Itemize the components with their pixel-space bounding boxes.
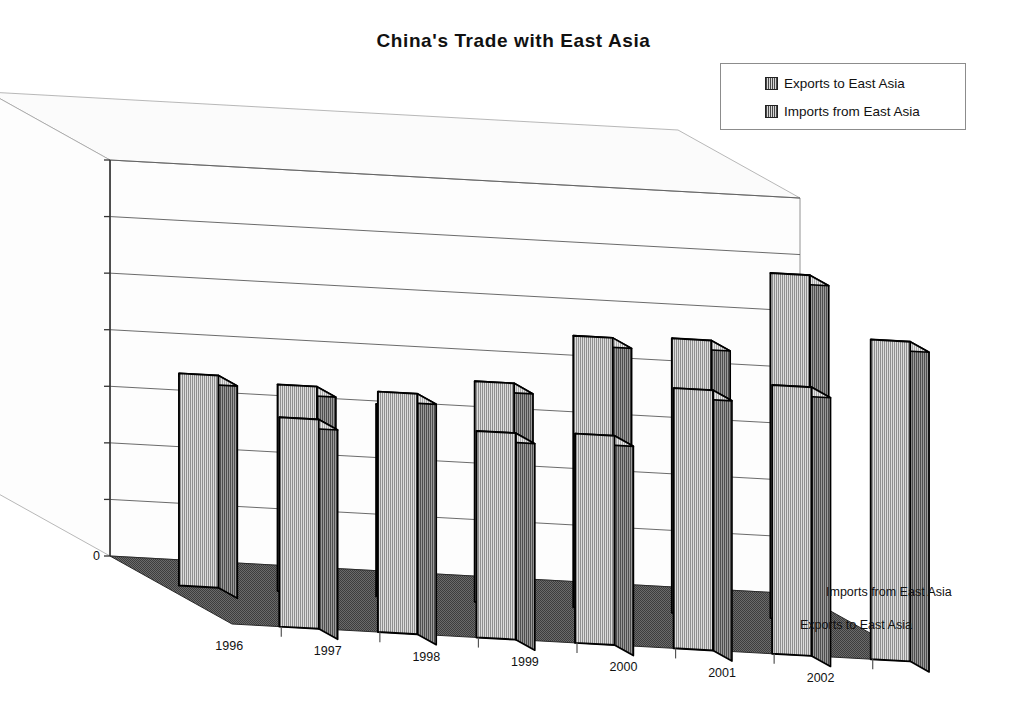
x-tick-label-2000: 2000 [610, 660, 638, 674]
x-tick-label-2001: 2001 [708, 666, 736, 680]
depth-axis-label-exports: Exports to East Asia [800, 618, 912, 632]
x-tick-label-1996: 1996 [215, 639, 243, 653]
x-tick-label-1999: 1999 [511, 655, 539, 669]
x-axis-tick-labels: 1996199719981999200020012002Imports from… [0, 0, 1027, 705]
depth-axis-label-imports: Imports from East Asia [826, 585, 952, 599]
x-tick-label-2002: 2002 [807, 671, 835, 685]
x-tick-label-1998: 1998 [412, 650, 440, 664]
chart-figure: China's Trade with East Asia Exports to … [0, 0, 1027, 705]
x-tick-label-1997: 1997 [314, 644, 342, 658]
